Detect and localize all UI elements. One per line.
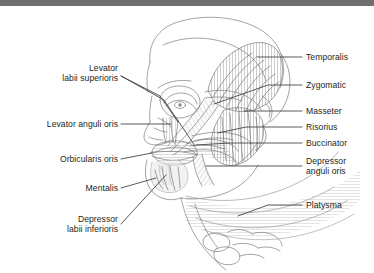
label-masseter: Masseter	[306, 106, 342, 116]
leader-orbicularis-oris	[121, 153, 152, 159]
leader-mentalis	[121, 178, 156, 188]
label-risorius: Risorius	[306, 122, 337, 132]
label-depressor-anguli-oris: Depressor anguli oris	[306, 156, 346, 177]
label-orbicularis-oris: Orbicularis oris	[60, 154, 118, 164]
label-temporalis: Temporalis	[306, 52, 348, 62]
orbit-and-eye	[158, 80, 200, 118]
label-mentalis: Mentalis	[86, 183, 118, 193]
label-zygomatic: Zygomatic	[306, 80, 346, 90]
depressor-anguli-oris-muscle	[193, 154, 214, 186]
label-platysma: Platysma	[306, 200, 342, 210]
label-levator-anguli-oris: Levator anguli oris	[47, 119, 118, 129]
label-depressor-labii-inferioris: Depressor labii inferioris	[67, 214, 118, 235]
leader-depressor-labii-inferioris	[121, 175, 166, 224]
temporalis-muscle	[208, 43, 282, 112]
anatomy-figure: Levator labii superioris Levator anguli …	[0, 0, 374, 273]
anatomy-drawing	[0, 0, 374, 273]
label-buccinator: Buccinator	[306, 138, 347, 148]
label-levator-labii-superioris: Levator labii superioris	[62, 63, 118, 84]
mentalis-muscle	[145, 160, 188, 200]
